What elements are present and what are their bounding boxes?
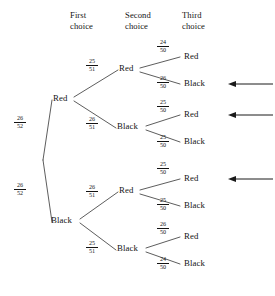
fraction-denominator: 50 [155,264,171,271]
fraction-denominator: 52 [12,123,28,130]
fraction-numerator: 26 [12,115,28,122]
fraction-denominator: 50 [155,205,171,212]
fraction-rr-to-red: 24 50 [155,39,171,53]
fraction-denominator: 50 [155,47,171,54]
fraction-numerator: 25 [155,134,171,141]
fraction-denominator: 50 [155,229,171,236]
fraction-bb-to-black: 24 50 [155,256,171,270]
fraction-numerator: 24 [155,256,171,263]
fraction-denominator: 51 [84,66,100,73]
arrow-marker-black-red-red [228,176,273,182]
node-third-black-black-black: Black [184,259,205,268]
node-third-black-black-red: Red [184,232,198,241]
node-third-red-red-black: Black [184,79,205,88]
fraction-denominator: 51 [84,124,100,131]
column-header-first-choice: First choice [70,10,93,31]
fraction-numerator: 26 [155,221,171,228]
fraction-rb-to-black: 25 50 [155,134,171,148]
fraction-denominator: 51 [84,248,100,255]
node-third-black-red-black: Black [184,201,205,210]
branch-bb-red [146,237,180,248]
node-second-red-black: Black [117,122,138,131]
column-header-second-choice: Second choice [125,10,151,31]
fraction-black-to-red: 26 51 [84,184,100,198]
node-second-red-red: Red [119,64,133,73]
branch-br-red [140,179,180,190]
fraction-red-to-red: 25 51 [84,58,100,72]
fraction-black-to-black: 25 51 [84,240,100,254]
node-first-red: Red [53,94,67,103]
branch-root-red [43,100,52,160]
fraction-numerator: 26 [84,184,100,191]
fraction-numerator: 26 [155,75,171,82]
fraction-numerator: 26 [12,182,28,189]
fraction-rr-to-black: 26 50 [155,75,171,89]
node-third-red-red-red: Red [184,52,198,61]
fraction-br-to-black: 25 50 [155,197,171,211]
fraction-numerator: 25 [84,240,100,247]
node-second-black-black: Black [117,244,138,253]
fraction-denominator: 50 [155,169,171,176]
probability-tree-diagram: First choice Second choice Third choice … [0,0,275,296]
fraction-first-red: 26 52 [12,115,28,129]
arrow-marker-red-red-black [228,81,273,87]
fraction-bb-to-red: 26 50 [155,221,171,235]
fraction-denominator: 52 [12,190,28,197]
node-third-red-black-black: Black [184,137,205,146]
node-second-black-red: Red [119,186,133,195]
fraction-br-to-red: 25 50 [155,161,171,175]
fraction-numerator: 25 [84,58,100,65]
branch-red-red [74,70,118,97]
node-third-black-red-red: Red [184,174,198,183]
fraction-numerator: 24 [155,39,171,46]
fraction-numerator: 25 [155,99,171,106]
fraction-rb-to-red: 25 50 [155,99,171,113]
branch-rr-red [140,57,180,68]
column-header-third-choice: Third choice [182,10,205,31]
fraction-denominator: 50 [155,107,171,114]
fraction-red-to-black: 26 51 [84,116,100,130]
branch-rb-red [146,115,180,126]
fraction-denominator: 50 [155,83,171,90]
arrow-marker-red-black-red [228,112,273,118]
branch-root-black [43,160,52,222]
fraction-numerator: 25 [155,197,171,204]
node-first-black: Black [51,216,72,225]
fraction-first-black: 26 52 [12,182,28,196]
fraction-denominator: 50 [155,142,171,149]
node-third-red-black-red: Red [184,110,198,119]
fraction-denominator: 51 [84,192,100,199]
fraction-numerator: 25 [155,161,171,168]
fraction-numerator: 26 [84,116,100,123]
